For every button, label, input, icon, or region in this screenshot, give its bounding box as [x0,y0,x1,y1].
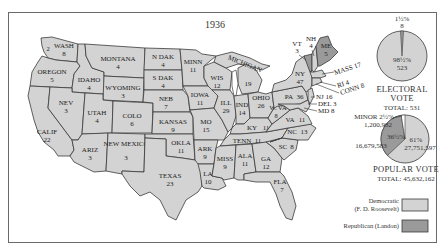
democratic-popular-votes: 27,751,597 [404,144,436,152]
svg-text:LA: LA [203,170,212,178]
svg-text:3: 3 [121,92,125,100]
svg-text:WASH: WASH [54,42,74,50]
svg-text:7: 7 [280,186,284,194]
lake-michigan [232,70,238,96]
svg-text:IOWA: IOWA [191,91,209,99]
svg-text:KANSAS: KANSAS [159,118,187,126]
svg-text:ARK: ARK [198,145,213,153]
svg-text:TEXAS: TEXAS [159,172,182,180]
svg-text:29: 29 [223,107,231,115]
svg-text:47: 47 [297,78,305,86]
state-sdak[interactable]: S DAK 4 [144,70,183,90]
svg-text:15: 15 [203,126,211,134]
svg-text:10: 10 [205,178,213,186]
svg-text:NC: NC [287,128,297,136]
electoral-total: TOTAL: 531 [384,104,421,112]
svg-text:61%: 61% [410,136,423,144]
election-map: 1936 WASH 8 2 OREGON 5 CALIF 22 IDAHO 4 … [0,0,445,248]
svg-text:MINN: MINN [184,58,203,66]
svg-text:OHIO: OHIO [252,94,270,102]
legend-republican-label: Republican (Landon) [344,222,399,230]
svg-text:ARIZ: ARIZ [82,146,98,154]
legend-democratic-candidate: (F. D. Roosevelt) [354,205,399,213]
svg-text:11: 11 [299,116,306,124]
svg-text:4: 4 [161,61,165,69]
svg-text:N DAK: N DAK [152,53,174,61]
svg-text:WIS: WIS [211,74,224,82]
electoral-caption-2: VOTE [390,93,413,103]
svg-text:NY: NY [295,70,305,78]
label-md: MD 8 [318,107,335,115]
label-mass: MASS 17 [333,61,362,77]
svg-text:5: 5 [50,76,54,84]
state-me[interactable]: ME 5 [316,36,338,66]
state-newmexico[interactable]: NEW MEXICO 3 [103,133,148,174]
svg-text:5: 5 [324,50,328,58]
legend-democratic-swatch [402,199,428,211]
svg-text:ME: ME [321,42,332,50]
state-colo[interactable]: COLO 6 [112,101,153,133]
svg-text:19: 19 [245,80,253,88]
popular-caption: POPULAR VOTE [373,164,439,174]
minor-label: MINOR 2½% [354,113,394,121]
svg-text:3: 3 [88,154,92,162]
svg-text:MONTANA: MONTANA [100,55,135,63]
legend: Democratic (F. D. Roosevelt) Republican … [344,197,428,232]
svg-text:8: 8 [290,143,294,151]
svg-text:4: 4 [95,117,99,125]
svg-text:ILL: ILL [221,99,232,107]
svg-text:11: 11 [197,99,204,107]
svg-text:IDAHO: IDAHO [78,76,101,84]
svg-text:8: 8 [400,22,404,30]
svg-text:7: 7 [164,103,168,111]
svg-text:MO: MO [200,118,211,126]
svg-text:WYOMING: WYOMING [105,84,140,92]
svg-text:8: 8 [62,50,66,58]
svg-text:NEB: NEB [159,95,173,103]
svg-text:12: 12 [263,163,271,171]
svg-text:4: 4 [161,82,165,90]
svg-text:TENN: TENN [233,137,252,145]
svg-text:6: 6 [130,120,134,128]
svg-text:ALA: ALA [238,152,252,160]
republican-popular-votes: 16,679,583 [355,142,387,150]
state-ndak[interactable]: N DAK 4 [144,48,182,70]
electoral-vote-pie: 1½% 8 98½% 523 [377,15,427,81]
svg-text:OREGON: OREGON [37,68,66,76]
map-title: 1936 [205,19,225,30]
svg-text:NEW MEXICO: NEW MEXICO [103,140,148,148]
svg-text:PA: PA [285,93,293,101]
svg-text:11: 11 [242,160,249,168]
svg-text:KY: KY [247,124,257,132]
svg-text:SC: SC [279,143,288,151]
svg-text:36½%: 36½% [387,133,405,141]
svg-text:GA: GA [261,155,271,163]
svg-text:11: 11 [190,66,197,74]
minor-votes: 1,200,982 [364,121,393,129]
svg-text:4: 4 [116,63,120,71]
label-nh-ev: 4 [309,42,313,50]
svg-text:4: 4 [87,84,91,92]
legend-republican-swatch [402,220,428,232]
state-ind[interactable]: IND 14 [234,94,250,124]
popular-total: TOTAL: 45,632,162 [377,175,435,183]
state-wyoming[interactable]: WYOMING 3 [103,76,144,102]
state-miss[interactable]: MISS 9 [212,145,236,180]
svg-text:NEV: NEV [59,99,73,107]
svg-text:26: 26 [258,102,266,110]
svg-text:14: 14 [239,109,247,117]
svg-text:12: 12 [214,82,222,90]
state-fla[interactable]: FLA 7 [244,172,296,220]
svg-text:9: 9 [171,126,175,134]
svg-text:COLO: COLO [122,112,141,120]
svg-text:36: 36 [297,93,305,101]
state-kansas[interactable]: KANSAS 9 [152,112,193,134]
svg-text:9: 9 [203,153,207,161]
svg-text:VA: VA [285,116,294,124]
legend-democratic-label: Democratic [369,197,399,204]
svg-text:9: 9 [223,163,227,171]
svg-text:CALIF: CALIF [37,128,57,136]
svg-text:3: 3 [64,107,68,115]
svg-text:S DAK: S DAK [153,74,174,82]
svg-text:8: 8 [274,112,277,119]
